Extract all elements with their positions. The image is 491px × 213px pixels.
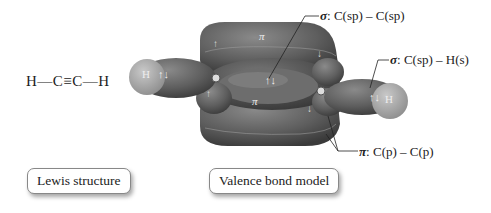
electron-arrow-bottom-right: ↓ <box>307 103 312 114</box>
electron-pair-ch-right: ↑↓ <box>369 91 380 103</box>
caption-lewis-structure: Lewis structure <box>27 168 131 194</box>
caption-valence-bond-model: Valence bond model <box>209 168 339 194</box>
label-sigma-ch: σ: C(sp) – H(s) <box>390 52 469 68</box>
electron-arrow-bottom-left: ↑ <box>206 88 211 99</box>
sigma-symbol: σ <box>390 52 397 67</box>
electron-pair-ch-left: ↑↓ <box>158 68 169 80</box>
carbon-nucleus-left <box>212 74 220 82</box>
carbon-nucleus-right <box>317 87 325 95</box>
pi-symbol-bottom: π <box>252 95 258 107</box>
right-h-label: H <box>385 93 393 105</box>
label-sigma-cc: σ: C(sp) – C(sp) <box>320 8 405 24</box>
pi-symbol-top: π <box>259 30 265 42</box>
electron-pair-cc: ↑↓ <box>265 74 276 86</box>
electron-arrow-top-left: ↑ <box>213 38 218 49</box>
left-h-label: H <box>142 68 150 80</box>
sigma-symbol: σ <box>320 8 327 23</box>
label-pi-cc: π: C(p) – C(p) <box>359 144 434 160</box>
electron-arrow-top-right: ↓ <box>317 48 322 59</box>
